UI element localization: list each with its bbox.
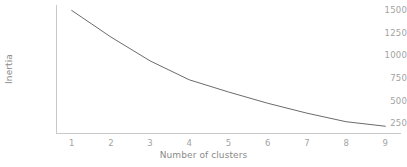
elbow-plot-figure: 250500750100012501500 123456789 Inertia … (0, 0, 407, 167)
plot-area (0, 0, 407, 167)
x-axis-title: Number of clusters (0, 151, 407, 160)
inertia-line-series (72, 10, 386, 126)
y-axis-title: Inertia (5, 54, 14, 84)
